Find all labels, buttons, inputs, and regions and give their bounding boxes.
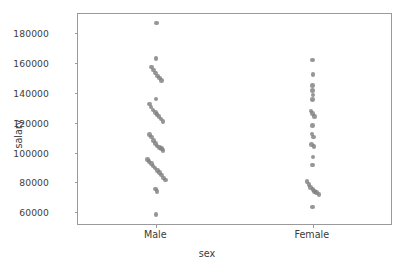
figure-canvas: salary 600008000010000012000014000016000… [0, 0, 414, 267]
x-tick-mark [313, 224, 314, 228]
y-tick-label: 80000 [0, 177, 49, 188]
data-point [310, 58, 315, 63]
y-tick-label: 120000 [0, 117, 49, 128]
y-tick-label: 140000 [0, 87, 49, 98]
x-tick-mark [156, 224, 157, 228]
data-point [312, 144, 317, 149]
data-point [311, 155, 316, 160]
y-tick-label: 100000 [0, 147, 49, 158]
x-tick-label-female: Female [252, 229, 372, 240]
y-tick-mark [75, 93, 79, 94]
data-point [163, 178, 168, 183]
x-axis-label: sex [0, 248, 414, 259]
plot-axes: 6000080000100000120000140000160000180000 [77, 13, 392, 225]
data-point [154, 21, 159, 26]
data-point [154, 56, 159, 61]
data-point [311, 72, 316, 77]
data-point [310, 123, 315, 128]
data-point [312, 114, 317, 119]
data-point [311, 135, 316, 140]
y-tick-mark [75, 123, 79, 124]
data-points-layer [78, 14, 391, 224]
data-point [317, 192, 322, 197]
data-point [310, 163, 315, 168]
data-point [161, 119, 166, 124]
data-point [155, 189, 160, 194]
data-point [310, 97, 315, 102]
y-tick-mark [75, 212, 79, 213]
y-tick-mark [75, 63, 79, 64]
y-tick-mark [75, 153, 79, 154]
y-tick-label: 160000 [0, 58, 49, 69]
y-tick-label: 60000 [0, 207, 49, 218]
data-point [154, 212, 159, 217]
data-point [161, 148, 166, 153]
data-point [310, 205, 315, 210]
y-tick-label: 180000 [0, 28, 49, 39]
y-tick-mark [75, 182, 79, 183]
y-tick-mark [75, 33, 79, 34]
x-tick-label-male: Male [95, 229, 215, 240]
data-point [154, 97, 159, 102]
data-point [159, 78, 164, 83]
data-point [310, 83, 315, 88]
